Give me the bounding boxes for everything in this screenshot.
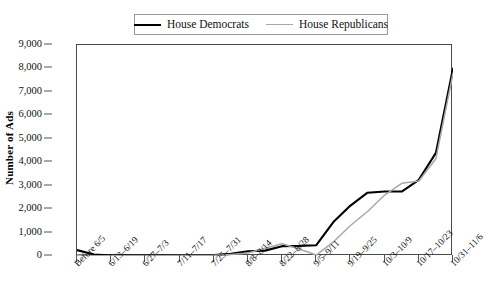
y-tick-label: 4,000	[18, 156, 42, 167]
series-line-house-republicans	[77, 73, 453, 256]
series-lines	[77, 45, 453, 256]
y-tick-mark	[44, 161, 52, 162]
y-tick-label: 3,000	[18, 179, 42, 190]
y-tick-label: 2,000	[18, 203, 42, 214]
legend-label-republicans: House Republicans	[299, 19, 388, 31]
legend-item-house-republicans: House Republicans	[266, 19, 388, 31]
y-tick-label: 6,000	[18, 109, 42, 120]
x-tick-label: 10/31–11/6	[449, 232, 485, 268]
y-tick-mark	[44, 90, 52, 91]
y-tick-mark	[44, 184, 52, 185]
y-tick-mark	[44, 44, 52, 45]
y-tick-label: 9,000	[18, 39, 42, 50]
legend-swatch-republicans-icon	[266, 24, 293, 25]
y-tick-mark	[44, 208, 52, 209]
series-line-house-democrats	[77, 68, 453, 255]
y-tick-mark	[44, 67, 52, 68]
y-tick-label: 5,000	[18, 133, 42, 144]
y-tick-mark	[44, 255, 52, 256]
y-tick-mark	[44, 231, 52, 232]
legend-swatch-democrats-icon	[134, 24, 161, 26]
y-axis-title: Number of Ads	[3, 111, 15, 185]
y-tick-label: 0	[37, 250, 42, 261]
y-tick-label: 1,000	[18, 226, 42, 237]
y-tick-label: 7,000	[18, 86, 42, 97]
legend-label-democrats: House Democrats	[167, 19, 249, 31]
plot-area	[76, 44, 452, 255]
y-tick-mark	[44, 137, 52, 138]
legend-item-house-democrats: House Democrats	[134, 19, 249, 31]
y-axis: Number of Ads 9,0008,0007,0006,0005,0004…	[0, 0, 76, 304]
chart-legend: House Democrats House Republicans	[134, 14, 388, 35]
y-tick-mark	[44, 114, 52, 115]
y-tick-label: 8,000	[18, 62, 42, 73]
